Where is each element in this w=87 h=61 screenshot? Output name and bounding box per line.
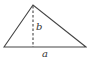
triangle-outline <box>4 5 86 47</box>
height-label: b <box>36 22 42 32</box>
base-label: a <box>42 49 48 59</box>
